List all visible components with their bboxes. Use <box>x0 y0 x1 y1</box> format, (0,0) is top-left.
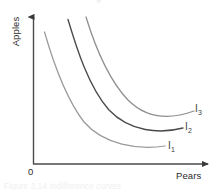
x-axis-title: Pears <box>176 170 201 181</box>
curve-label-i2: I2 <box>185 122 192 132</box>
plot-canvas <box>0 0 221 190</box>
cropped-caption-fragment: Figure 3.14 Indifference curves <box>4 181 121 190</box>
indifference-curve-i2 <box>68 20 183 131</box>
indifference-curve-figure: g Apples Pears 0 I1 I2 I3 Figure 3.14 In… <box>0 0 221 190</box>
curve-label-i2-subscript: 2 <box>188 127 192 134</box>
curve-label-i3: I3 <box>195 104 202 114</box>
curve-label-i1: I1 <box>168 141 175 151</box>
y-axis-title: Apples <box>10 7 21 57</box>
origin-label: 0 <box>28 166 33 177</box>
curve-label-i1-subscript: 1 <box>171 146 175 153</box>
curve-label-i3-subscript: 3 <box>198 109 202 116</box>
